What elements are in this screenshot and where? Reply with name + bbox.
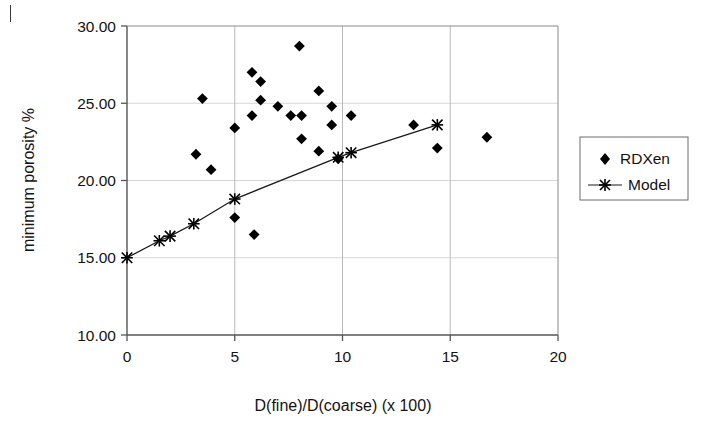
y-axis-tick-labels: 10.0015.0020.0025.0030.00: [77, 18, 116, 344]
model-asterisk-marker: [188, 218, 200, 230]
model-asterisk-marker: [229, 193, 241, 205]
y-tick-label: 10.00: [77, 327, 116, 344]
x-tick-label: 10: [334, 348, 352, 365]
legend-label-rdxen: RDXen: [620, 150, 670, 167]
y-tick-label: 15.00: [77, 249, 116, 266]
legend-asterisk-icon: [599, 179, 611, 191]
model-asterisk-marker: [121, 252, 133, 264]
y-tick-label: 30.00: [77, 18, 116, 35]
x-tick-label: 15: [442, 348, 459, 365]
model-asterisk-marker: [432, 119, 444, 131]
legend-label-model: Model: [628, 176, 670, 193]
x-axis-title: D(fine)/D(coarse) (x 100): [255, 397, 432, 414]
chart-legend: RDXen Model: [580, 137, 688, 200]
x-axis-ticks: [127, 335, 558, 341]
y-axis-ticks: [121, 26, 127, 335]
model-asterisk-marker: [154, 235, 166, 247]
x-tick-label: 20: [549, 348, 567, 365]
model-asterisk-marker: [164, 230, 176, 242]
y-axis-title: minimum porosity %: [20, 108, 37, 252]
y-tick-label: 20.00: [77, 172, 116, 189]
x-axis-tick-labels: 05101520: [123, 348, 567, 365]
chart-figure: 10.0015.0020.0025.0030.00 05101520 minim…: [0, 0, 712, 429]
y-tick-label: 25.00: [77, 95, 116, 112]
x-tick-label: 0: [123, 348, 132, 365]
scatter-chart: 10.0015.0020.0025.0030.00 05101520 minim…: [0, 0, 712, 429]
model-asterisk-marker: [345, 147, 357, 159]
x-tick-label: 5: [230, 348, 239, 365]
